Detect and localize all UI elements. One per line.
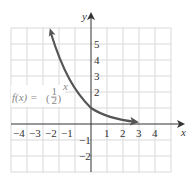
svg-text:4: 4 — [152, 127, 158, 139]
y-axis-label: y — [81, 10, 87, 22]
svg-text:): ) — [58, 92, 62, 105]
svg-text:4: 4 — [94, 54, 100, 66]
svg-text:x: x — [62, 80, 68, 92]
svg-text:−2: −2 — [45, 127, 57, 139]
svg-text:2: 2 — [52, 94, 58, 106]
svg-text:−1: −1 — [61, 127, 73, 139]
svg-text:−2: −2 — [79, 150, 91, 162]
svg-text:1: 1 — [104, 127, 110, 139]
svg-text:−3: −3 — [29, 127, 41, 139]
svg-text:3: 3 — [94, 70, 100, 82]
svg-text:2: 2 — [120, 127, 126, 139]
svg-text:(: ( — [46, 92, 50, 105]
x-axis-label: x — [180, 126, 186, 138]
svg-text:2: 2 — [94, 86, 100, 98]
y-tick-labels: 5 4 3 2 −1 −2 — [79, 38, 100, 162]
svg-text:−4: −4 — [13, 127, 25, 139]
svg-text:−1: −1 — [79, 134, 91, 146]
svg-text:3: 3 — [136, 127, 142, 139]
exponential-graph: x y f(x) = ( 1 2 ) x −4 −3 −2 −1 1 2 3 4… — [0, 0, 191, 183]
svg-text:5: 5 — [94, 38, 100, 50]
svg-text:f(x) =: f(x) = — [12, 91, 37, 104]
